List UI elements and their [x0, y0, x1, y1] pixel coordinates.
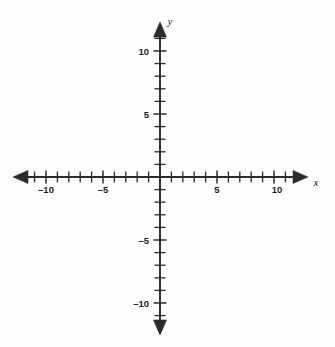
x-axis-label: x: [313, 176, 319, 188]
y-tick-label-neg5: –5: [138, 235, 149, 246]
y-tick-label-neg10: –10: [133, 298, 149, 309]
y-axis-top-arrowhead: [154, 22, 167, 37]
y-tick-label-10: 10: [138, 46, 149, 57]
coordinate-plane-svg: –10 –5 5 10 10 5 –5 –10 x y: [0, 0, 335, 347]
coordinate-plane-figure: –10 –5 5 10 10 5 –5 –10 x y: [0, 0, 335, 347]
x-tick-label-neg10: –10: [38, 184, 54, 195]
x-tick-label-10: 10: [272, 184, 283, 195]
y-axis-group: [154, 22, 167, 335]
y-tick-label-5: 5: [144, 109, 150, 120]
x-tick-label-neg5: –5: [98, 184, 109, 195]
y-axis-bottom-arrowhead: [154, 320, 167, 335]
x-axis-right-arrowhead: [293, 171, 308, 184]
x-axis-left-arrowhead: [13, 171, 28, 184]
y-axis-label: y: [167, 15, 173, 27]
x-tick-label-5: 5: [214, 184, 220, 195]
